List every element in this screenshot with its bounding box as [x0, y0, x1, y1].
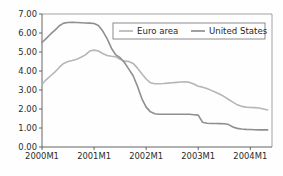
x-tick-label: 2002M1	[129, 151, 163, 161]
y-tick-label: 1.00	[18, 123, 37, 133]
y-tick-label: 6.00	[18, 28, 37, 38]
y-tick-label: 4.00	[18, 66, 37, 76]
chart-legend: Euro areaUnited States	[113, 23, 268, 39]
y-tick-label: 5.00	[18, 47, 37, 57]
legend-label-euro-area: Euro area	[137, 26, 178, 36]
series-line-euro-area	[42, 50, 268, 110]
y-tick-label: 7.00	[18, 9, 37, 19]
legend-label-united-states: United States	[209, 26, 268, 36]
y-tick-label: 2.00	[18, 104, 37, 114]
x-tick-label: 2003M1	[181, 151, 215, 161]
x-tick-label: 2004M1	[233, 151, 267, 161]
y-tick-label: 3.00	[18, 85, 37, 95]
x-axis: 2000M12001M12002M12003M12004M1	[25, 147, 272, 161]
chart-canvas: 0.001.002.003.004.005.006.007.00 2000M12…	[0, 0, 283, 176]
interest-rate-line-chart: 0.001.002.003.004.005.006.007.00 2000M12…	[0, 0, 283, 176]
x-tick-label: 2001M1	[77, 151, 111, 161]
x-tick-label: 2000M1	[25, 151, 59, 161]
y-axis: 0.001.002.003.004.005.006.007.00	[18, 9, 42, 152]
